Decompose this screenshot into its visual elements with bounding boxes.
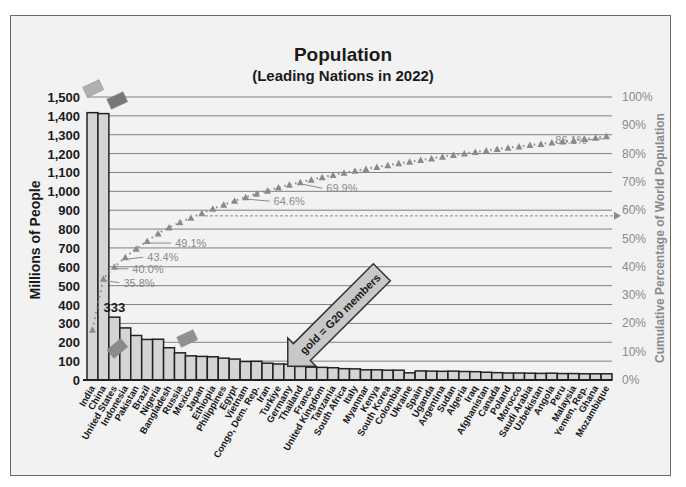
bar xyxy=(481,372,492,380)
cumulative-marker xyxy=(351,167,358,174)
cumulative-marker xyxy=(384,162,391,169)
y-tick-label: 300 xyxy=(58,316,80,331)
bar xyxy=(382,370,393,380)
y-tick-label: 1,500 xyxy=(47,90,80,105)
cumulative-label: 35.8% xyxy=(123,277,154,289)
bar xyxy=(503,373,514,380)
bar xyxy=(131,335,142,380)
bar xyxy=(229,359,240,380)
bar xyxy=(350,369,361,380)
leader-line xyxy=(127,257,143,259)
cumulative-marker xyxy=(176,219,183,226)
cumulative-marker xyxy=(395,160,402,167)
bar xyxy=(317,367,328,380)
cumulative-marker xyxy=(187,214,194,221)
y2-tick-label: 70% xyxy=(622,175,646,189)
cumulative-label: 43.4% xyxy=(147,251,178,263)
cumulative-marker xyxy=(417,157,424,164)
cumulative-marker xyxy=(526,142,533,149)
bar xyxy=(525,373,536,380)
bar xyxy=(514,373,525,380)
y-tick-label: 400 xyxy=(58,298,80,313)
y2-tick-label: 60% xyxy=(622,203,646,217)
cumulative-marker xyxy=(373,163,380,170)
bar xyxy=(196,356,207,380)
bar xyxy=(295,366,306,380)
cumulative-marker xyxy=(286,181,293,188)
y2-tick-label: 100% xyxy=(622,90,653,104)
y2-tick-label: 80% xyxy=(622,147,646,161)
y-tick-label: 1,300 xyxy=(47,128,80,143)
bar xyxy=(273,364,284,380)
bar xyxy=(98,114,109,380)
cumulative-marker xyxy=(319,174,326,181)
y-axis-title: Millions of People xyxy=(27,180,43,299)
india-flag-icon xyxy=(83,80,104,98)
cumulative-marker xyxy=(450,152,457,159)
cumulative-label: 40.0% xyxy=(132,263,163,275)
leader-line xyxy=(302,184,322,188)
y-tick-label: 500 xyxy=(58,279,80,294)
chart-plot: 01002003004005006007008009001,0001,1001,… xyxy=(0,0,686,487)
cumulative-marker xyxy=(483,147,490,154)
cumulative-marker xyxy=(275,184,282,191)
y-tick-label: 100 xyxy=(58,354,80,369)
bar xyxy=(142,339,153,380)
y-tick-label: 200 xyxy=(58,335,80,350)
russia-flag-icon xyxy=(177,330,198,348)
y-tick-label: 1,000 xyxy=(47,184,80,199)
bar xyxy=(426,371,437,380)
bar xyxy=(240,362,251,380)
cumulative-marker xyxy=(209,205,216,212)
y2-tick-label: 30% xyxy=(622,288,646,302)
cumulative-marker xyxy=(439,153,446,160)
bar xyxy=(306,367,317,380)
cumulative-marker xyxy=(362,165,369,172)
bar xyxy=(459,372,470,380)
cumulative-marker xyxy=(537,140,544,147)
cumulative-marker xyxy=(308,176,315,183)
bar xyxy=(404,373,415,380)
y2-tick-label: 90% xyxy=(622,118,646,132)
bar xyxy=(207,357,218,380)
bar xyxy=(251,361,262,380)
bar xyxy=(175,353,186,380)
cumulative-marker xyxy=(516,143,523,150)
bar xyxy=(120,328,131,380)
y-tick-label: 700 xyxy=(58,241,80,256)
cumulative-marker xyxy=(220,201,227,208)
bar xyxy=(153,339,164,380)
bar-value-label: 333 xyxy=(103,300,125,315)
y-tick-label: 600 xyxy=(58,260,80,275)
cumulative-marker xyxy=(406,158,413,165)
g20-annotation-arrow: gold = G20 members xyxy=(274,258,396,380)
cumulative-marker xyxy=(548,139,555,146)
cumulative-marker xyxy=(428,155,435,162)
y2-tick-label: 20% xyxy=(622,316,646,330)
bar xyxy=(437,371,448,380)
bar xyxy=(87,113,98,380)
bar xyxy=(371,370,382,380)
bar xyxy=(470,372,481,380)
y-tick-label: 0 xyxy=(73,373,80,388)
cumulative-marker xyxy=(155,230,162,237)
y2-tick-label: 0% xyxy=(622,373,640,387)
cumulative-marker xyxy=(505,144,512,151)
bar xyxy=(546,373,557,380)
cumulative-marker xyxy=(494,146,501,153)
leader-line xyxy=(248,199,270,201)
bar xyxy=(448,371,459,380)
bar xyxy=(164,348,175,380)
bar xyxy=(360,370,371,380)
y2-axis-title: Cumulative Percentage of World Populatio… xyxy=(653,113,667,363)
bar xyxy=(185,356,196,380)
y2-tick-label: 40% xyxy=(622,260,646,274)
y-tick-label: 1,100 xyxy=(47,165,80,180)
cumulative-marker xyxy=(472,148,479,155)
cumulative-label: 49.1% xyxy=(175,237,206,249)
china-flag-icon xyxy=(107,92,128,110)
arrow-head-icon xyxy=(614,212,621,220)
y-tick-label: 900 xyxy=(58,203,80,218)
bar xyxy=(218,358,229,380)
y2-tick-label: 10% xyxy=(622,345,646,359)
